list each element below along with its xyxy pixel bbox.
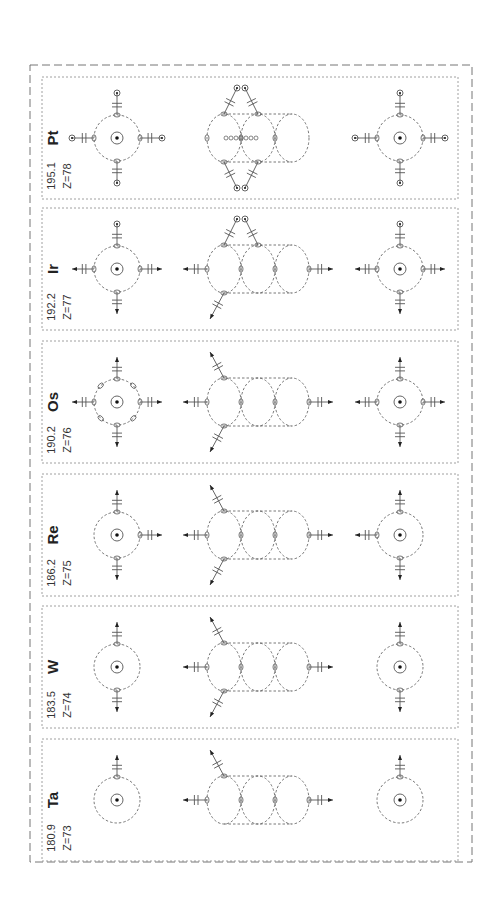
electron-dot [354, 137, 356, 139]
element-symbol: Pt [44, 130, 61, 145]
atomic-structure-diagram: Pt195.1Z=78Ir192.2Z=77Os190.2Z=76Re186.2… [0, 0, 497, 916]
arrow-head-icon [115, 309, 119, 314]
arrow-head-icon [115, 622, 119, 627]
arrow-head-icon [210, 447, 214, 452]
electron-dot [244, 87, 246, 89]
arrow-head-icon [183, 533, 188, 537]
atomic-number: Z=75 [61, 560, 73, 585]
orbital-lobe [241, 511, 275, 559]
double-bar [212, 304, 221, 309]
arrow-head-icon [210, 314, 214, 319]
double-bar [225, 170, 234, 174]
arrow-head-icon [183, 400, 188, 404]
atomic-number: Z=74 [61, 692, 73, 717]
double-bar [214, 301, 223, 306]
arrow-head-icon [183, 798, 188, 802]
electron-dot [244, 187, 246, 189]
electron-dot [236, 218, 238, 220]
element-symbol: Ta [44, 791, 61, 808]
panel-border [42, 77, 458, 199]
arrow-head-icon [398, 622, 402, 627]
electron-dot [116, 92, 118, 94]
arrow-head-icon [355, 267, 360, 271]
arrow-head-icon [183, 665, 188, 669]
panel-border [42, 474, 458, 596]
chain-bead [249, 136, 253, 140]
atomic-mass: 190.2 [45, 426, 57, 454]
double-bar [248, 170, 257, 174]
arrow-head-icon [157, 400, 162, 404]
chain-bead [229, 136, 233, 140]
atomic-mass: 192.2 [45, 293, 57, 321]
nucleus-dot [115, 267, 119, 271]
arrow-head-icon [210, 485, 214, 490]
arrow-head-icon [398, 707, 402, 712]
panel-border [42, 739, 458, 861]
double-bar [214, 631, 223, 636]
arrow-head-icon [210, 352, 214, 357]
outer-frame [30, 65, 472, 862]
double-bar [247, 229, 256, 233]
orbital-lobe [275, 776, 309, 824]
double-bar [226, 173, 235, 177]
orbital-lobe [207, 245, 241, 293]
nucleus-dot [398, 400, 402, 404]
chain-bead [234, 136, 238, 140]
arrow-head-icon [210, 750, 214, 755]
double-bar [226, 229, 235, 233]
atomic-mass: 183.5 [45, 691, 57, 719]
electron-dot [236, 87, 238, 89]
panel-border [42, 208, 458, 330]
electron-dot [399, 92, 401, 94]
nucleus-dot [398, 136, 402, 140]
atomic-mass: 195.1 [45, 162, 57, 190]
arrow-head-icon [328, 798, 333, 802]
arrow-head-icon [115, 707, 119, 712]
double-bar [248, 102, 257, 106]
arrow-head-icon [157, 533, 162, 537]
orbital-lobe [275, 643, 309, 691]
double-bar [225, 102, 234, 106]
nucleus-dot [115, 136, 119, 140]
electron-dot [236, 187, 238, 189]
nucleus-dot [398, 665, 402, 669]
arrow-head-icon [157, 267, 162, 271]
nucleus-dot [398, 533, 402, 537]
double-bar [247, 98, 256, 102]
orbital-lobe [207, 643, 241, 691]
orbital-lobe [275, 114, 309, 162]
arrow-head-icon [210, 580, 214, 585]
double-bar [212, 495, 221, 500]
double-bar [214, 764, 223, 769]
double-bar [212, 627, 221, 632]
electron-dot [116, 223, 118, 225]
arrow-head-icon [328, 400, 333, 404]
arrow-head-icon [210, 617, 214, 622]
double-bar [214, 434, 223, 439]
double-bar [212, 760, 221, 765]
double-bar [212, 702, 221, 707]
double-bar [214, 699, 223, 704]
orbital-lobe [207, 511, 241, 559]
nucleus-dot [398, 798, 402, 802]
double-bar [212, 570, 221, 575]
chain-bead [244, 136, 248, 140]
arrow-head-icon [115, 490, 119, 495]
atomic-number: Z=76 [61, 427, 73, 452]
arrow-head-icon [440, 400, 445, 404]
nucleus-dot [115, 400, 119, 404]
electron-dot [161, 137, 163, 139]
arrow-head-icon [115, 755, 119, 760]
nucleus-dot [115, 665, 119, 669]
atomic-number: Z=78 [61, 163, 73, 188]
orbital-lobe [241, 776, 275, 824]
atomic-number: Z=77 [61, 294, 73, 319]
arrow-head-icon [72, 400, 77, 404]
double-bar [214, 366, 223, 371]
double-bar [225, 233, 234, 237]
double-bar [214, 499, 223, 504]
arrow-head-icon [355, 400, 360, 404]
electron-dot [399, 182, 401, 184]
atomic-mass: 180.9 [45, 824, 57, 852]
arrow-head-icon [328, 533, 333, 537]
